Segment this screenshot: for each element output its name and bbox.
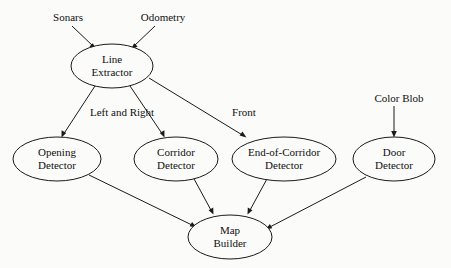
node-label-opening-detector-line2: Detector bbox=[38, 159, 76, 171]
node-label-end-of-corridor-detector-line2: Detector bbox=[265, 159, 303, 171]
node-label-map-builder-line1: Map bbox=[220, 224, 241, 236]
node-corridor-detector[interactable]: Corridor Detector bbox=[134, 137, 218, 181]
node-label-door-detector-line1: Door bbox=[383, 146, 406, 158]
edge-label-front: Front bbox=[232, 106, 256, 118]
edge-line bbox=[149, 78, 244, 136]
node-label-line-extractor-line2: Extractor bbox=[92, 66, 133, 78]
node-end-of-corridor-detector[interactable]: End-of-Corridor Detector bbox=[232, 137, 336, 181]
input-label-color-blob: Color Blob bbox=[374, 92, 424, 104]
edge-sonars-to-line-extractor bbox=[72, 26, 96, 50]
node-label-corridor-detector-line2: Detector bbox=[157, 159, 195, 171]
node-label-map-builder-line2: Builder bbox=[214, 237, 247, 249]
edge-line bbox=[72, 26, 94, 47]
input-label-odometry: Odometry bbox=[141, 11, 186, 23]
arrowhead-icon bbox=[248, 208, 253, 215]
node-door-detector[interactable]: Door Detector bbox=[353, 137, 435, 181]
diagram-canvas: Sonars Odometry Color Blob Left and Righ… bbox=[0, 0, 451, 268]
edge-door-detector-to-map-builder bbox=[266, 177, 367, 230]
node-label-opening-detector-line1: Opening bbox=[38, 146, 76, 158]
node-map-builder[interactable]: Map Builder bbox=[188, 215, 272, 259]
node-opening-detector[interactable]: Opening Detector bbox=[13, 137, 101, 181]
node-label-corridor-detector-line1: Corridor bbox=[157, 146, 195, 158]
node-label-door-detector-line2: Detector bbox=[375, 159, 413, 171]
edge-odometry-to-line-extractor bbox=[131, 26, 155, 50]
edge-line bbox=[133, 26, 155, 47]
edge-end-of-corridor-detector-to-map-builder bbox=[248, 177, 269, 215]
edge-opening-detector-to-map-builder bbox=[89, 175, 197, 228]
edge-color-blob-to-door-detector bbox=[391, 106, 397, 138]
edge-line bbox=[249, 177, 268, 212]
architecture-diagram: Sonars Odometry Color Blob Left and Righ… bbox=[0, 0, 451, 268]
node-label-line-extractor-line1: Line bbox=[102, 53, 122, 65]
input-label-sonars: Sonars bbox=[53, 11, 83, 23]
arrowhead-icon bbox=[209, 208, 214, 215]
edge-line bbox=[193, 177, 212, 212]
edge-line bbox=[268, 177, 366, 228]
edge-line bbox=[89, 175, 194, 226]
edge-label-left-and-right: Left and Right bbox=[90, 106, 154, 118]
node-label-end-of-corridor-detector-line1: End-of-Corridor bbox=[248, 146, 320, 158]
arrowhead-icon bbox=[240, 131, 247, 137]
edge-corridor-detector-to-map-builder bbox=[193, 177, 214, 215]
node-line-extractor[interactable]: Line Extractor bbox=[71, 44, 153, 88]
